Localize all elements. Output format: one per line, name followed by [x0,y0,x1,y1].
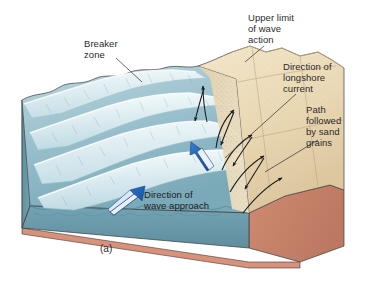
label-path-followed-by-sand-grains: Path followed by sand grains [306,104,341,148]
label-breaker-zone: Breaker zone [84,38,118,60]
label-upper-limit-of-wave-action: Upper limit of wave action [248,12,294,45]
figure-caption: (a) [100,243,112,254]
label-direction-of-longshore-current: Direction of longshore current [283,61,332,94]
label-direction-of-wave-approach: Direction of wave approach [144,189,209,211]
coastal-longshore-drift-figure: Breaker zone Upper limit of wave action … [0,0,371,295]
